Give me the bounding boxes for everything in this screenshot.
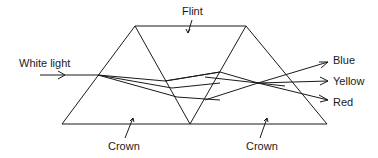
blue-label: Blue (333, 55, 355, 66)
red-label: Red (333, 97, 353, 108)
yellow-label: Yellow (333, 76, 364, 87)
prism-diagram (0, 0, 378, 158)
crown-left-label: Crown (108, 141, 140, 152)
blue-ray (165, 72, 220, 81)
flint-label: Flint (182, 6, 203, 17)
white-light-label: White light (19, 58, 70, 69)
crown-right-pointer (260, 118, 267, 138)
right-crown-prism (190, 26, 327, 124)
crown-left-pointer (125, 118, 133, 138)
crown-right-label: Crown (246, 141, 278, 152)
